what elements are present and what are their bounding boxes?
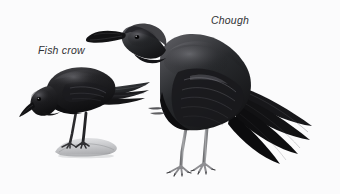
label-chough: Chough	[211, 14, 249, 26]
illustration-plate: Fish crow Chough	[0, 0, 340, 194]
label-fish-crow: Fish crow	[38, 44, 85, 56]
fish-crow-eye	[37, 97, 41, 101]
chough-eye	[135, 35, 140, 39]
bird-comparison-artwork	[0, 0, 340, 194]
